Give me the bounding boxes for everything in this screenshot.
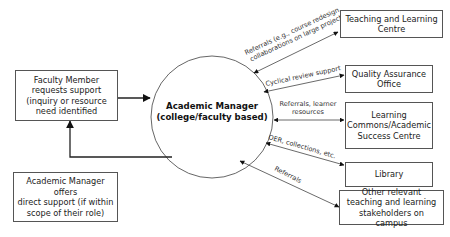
other-stakeholders-box: Other relevant teaching and learning sta… — [339, 190, 444, 225]
faculty-member-label: Faculty Member requests support (inquiry… — [26, 75, 107, 117]
learning-commons-box: Learning Commons/Academic Success Centre — [345, 102, 433, 149]
edge-label-learning-line1: Referrals, learner — [280, 100, 337, 108]
direct-support-label: Academic Manager offers direct support (… — [16, 176, 115, 218]
direct-support-box: Academic Manager offers direct support (… — [13, 172, 118, 222]
edge-label-learning-line2: resources — [292, 108, 325, 116]
edge-label-quality: Cyclical review support — [265, 64, 342, 88]
library-box: Library — [345, 162, 433, 187]
edge-label-other: Referrals — [273, 165, 303, 186]
arrow-other-stakeholders — [240, 161, 339, 207]
edge-label-teaching-line2: collaborations on large projects) — [249, 11, 349, 63]
quality-assurance-office-box: Quality Assurance Office — [345, 65, 433, 93]
faculty-member-box: Faculty Member requests support (inquiry… — [15, 70, 118, 121]
academic-manager-label: Academic Manager (college/faculty based) — [152, 101, 272, 123]
edge-label-teaching-line1: Referrals (e.g., course redesign, — [243, 5, 342, 57]
other-stakeholders-label: Other relevant teaching and learning sta… — [342, 187, 441, 229]
library-label: Library — [375, 169, 404, 180]
quality-assurance-office-label: Quality Assurance Office — [352, 69, 426, 90]
learning-commons-label: Learning Commons/Academic Success Centre — [347, 110, 431, 142]
teaching-learning-centre-box: Teaching and Learning Centre — [340, 10, 443, 38]
teaching-learning-centre-label: Teaching and Learning Centre — [345, 14, 437, 35]
